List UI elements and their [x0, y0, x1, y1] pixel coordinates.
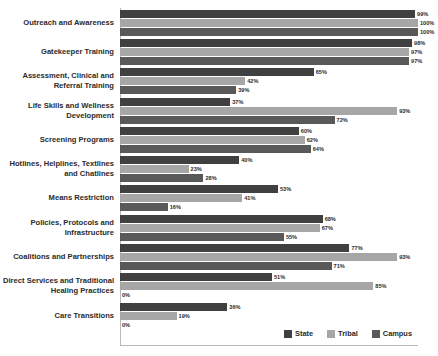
category-label: Gatekeeper Training	[0, 47, 114, 57]
bar-state	[120, 98, 230, 106]
legend-swatch-icon	[372, 330, 380, 338]
bar-line: 28%	[120, 174, 418, 182]
bar-value-label: 68%	[323, 216, 336, 222]
category-label: Policies, Protocols and Infrastructure	[0, 218, 114, 238]
bar-value-label: 77%	[349, 245, 362, 251]
bar-line: 40%	[120, 156, 418, 164]
category-bar-group: 36%19%0%	[120, 301, 438, 330]
bar-tribal	[120, 107, 397, 115]
bar-campus	[120, 145, 311, 153]
bar-value-label: 40%	[239, 157, 252, 163]
bar-state	[120, 185, 278, 193]
category-label: Hotlines, Helplines, Textlines and Chatl…	[0, 159, 114, 179]
bar-tribal	[120, 165, 189, 173]
bar-line: 0%	[120, 321, 418, 329]
legend-label: State	[295, 329, 313, 338]
bar-value-label: 97%	[409, 58, 422, 64]
bar-campus	[120, 233, 284, 241]
bar-campus	[120, 116, 335, 124]
bar-line: 77%	[120, 244, 418, 252]
bar-value-label: 55%	[284, 234, 297, 240]
bar-line: 23%	[120, 165, 418, 173]
bar-line: 67%	[120, 224, 418, 232]
chart-category-row: Assessment, Clinical and Referral Traini…	[0, 67, 438, 96]
legend-item-tribal[interactable]: Tribal	[327, 329, 358, 338]
bar-value-label: 0%	[120, 322, 130, 328]
category-bar-group: 68%67%55%	[120, 213, 438, 242]
category-bar-group: 99%100%100%	[120, 8, 438, 37]
bar-campus	[120, 203, 168, 211]
bar-line: 72%	[120, 116, 418, 124]
bar-value-label: 100%	[418, 20, 434, 26]
category-bar-group: 77%93%71%	[120, 242, 438, 271]
grouped-bar-chart: Outreach and Awareness99%100%100%Gatekee…	[0, 0, 438, 356]
bar-tribal	[120, 282, 373, 290]
bar-line: 93%	[120, 253, 418, 261]
chart-category-row: Screening Programs60%62%64%	[0, 125, 438, 154]
bar-state	[120, 303, 227, 311]
bar-tribal	[120, 194, 242, 202]
bar-state	[120, 273, 272, 281]
x-axis-line	[120, 345, 418, 346]
bar-value-label: 100%	[418, 29, 434, 35]
bar-value-label: 42%	[245, 78, 258, 84]
bar-campus	[120, 28, 418, 36]
chart-category-row: Means Restriction53%41%16%	[0, 184, 438, 213]
chart-category-row: Outreach and Awareness99%100%100%	[0, 8, 438, 37]
bar-state	[120, 68, 314, 76]
bar-line: 37%	[120, 98, 418, 106]
bar-campus	[120, 174, 203, 182]
bar-state	[120, 156, 239, 164]
bar-value-label: 93%	[397, 108, 410, 114]
bar-value-label: 0%	[120, 292, 130, 298]
bar-value-label: 39%	[236, 87, 249, 93]
bar-tribal	[120, 77, 245, 85]
chart-rows: Outreach and Awareness99%100%100%Gatekee…	[0, 8, 438, 330]
chart-category-row: Care Transitions36%19%0%	[0, 301, 438, 330]
category-label: Means Restriction	[0, 193, 114, 203]
bar-line: 51%	[120, 273, 418, 281]
bar-line: 71%	[120, 262, 418, 270]
bar-state	[120, 215, 323, 223]
category-label: Assessment, Clinical and Referral Traini…	[0, 71, 114, 91]
bar-campus	[120, 86, 236, 94]
category-bar-group: 51%85%0%	[120, 272, 438, 301]
bar-line: 97%	[120, 57, 418, 65]
bar-value-label: 37%	[230, 99, 243, 105]
bar-state	[120, 39, 412, 47]
bar-value-label: 16%	[168, 204, 181, 210]
bar-line: 64%	[120, 145, 418, 153]
bar-line: 42%	[120, 77, 418, 85]
bar-line: 68%	[120, 215, 418, 223]
category-label: Direct Services and Traditional Healing …	[0, 276, 114, 296]
bar-value-label: 51%	[272, 274, 285, 280]
bar-campus	[120, 262, 332, 270]
bar-tribal	[120, 136, 305, 144]
bar-line: 39%	[120, 86, 418, 94]
bar-value-label: 19%	[177, 313, 190, 319]
bar-line: 19%	[120, 312, 418, 320]
category-bar-group: 60%62%64%	[120, 125, 438, 154]
legend-item-campus[interactable]: Campus	[372, 329, 412, 338]
bar-tribal	[120, 19, 418, 27]
bar-line: 36%	[120, 303, 418, 311]
legend-label: Campus	[383, 329, 412, 338]
chart-category-row: Life Skills and Wellness Development37%9…	[0, 96, 438, 125]
bar-line: 16%	[120, 203, 418, 211]
bar-line: 93%	[120, 107, 418, 115]
bar-state	[120, 10, 415, 18]
legend-item-state[interactable]: State	[284, 329, 313, 338]
legend-label: Tribal	[338, 329, 358, 338]
bar-value-label: 93%	[397, 254, 410, 260]
legend-swatch-icon	[327, 330, 335, 338]
category-bar-group: 98%97%97%	[120, 37, 438, 66]
bar-line: 99%	[120, 10, 418, 18]
bar-line: 98%	[120, 39, 418, 47]
bar-line: 62%	[120, 136, 418, 144]
bar-value-label: 71%	[332, 263, 345, 269]
bar-line: 97%	[120, 48, 418, 56]
category-bar-group: 53%41%16%	[120, 184, 438, 213]
bar-value-label: 72%	[335, 117, 348, 123]
bar-value-label: 85%	[373, 283, 386, 289]
chart-category-row: Gatekeeper Training98%97%97%	[0, 37, 438, 66]
